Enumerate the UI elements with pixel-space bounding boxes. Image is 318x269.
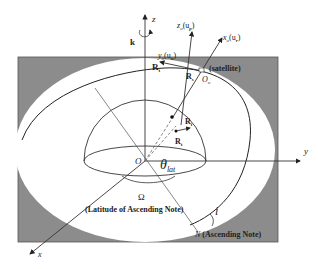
omega-description: (Latitude of Ascending Note)	[85, 205, 184, 214]
satellite-label: (satellite)	[209, 64, 241, 73]
inclination-label: i	[215, 204, 218, 218]
xo-label: xo(ur)	[222, 33, 241, 43]
origin-label: O	[135, 156, 142, 166]
point-1	[170, 115, 174, 119]
omega-label: Ω	[138, 192, 145, 202]
y-axis-label: y	[303, 146, 308, 156]
x-axis-label: x	[37, 250, 42, 259]
satellite-marker	[199, 68, 204, 72]
k-label: k	[130, 37, 135, 47]
z-axis-label: z	[151, 14, 156, 24]
zo-label: zo(up)	[176, 21, 195, 31]
orbit-diagram: z k y x O zo(up) xo(ur) yo(un) (satellit…	[0, 0, 318, 269]
node-label: N(Ascending Note)	[194, 230, 262, 239]
yo-label: yo(un)	[157, 51, 177, 61]
